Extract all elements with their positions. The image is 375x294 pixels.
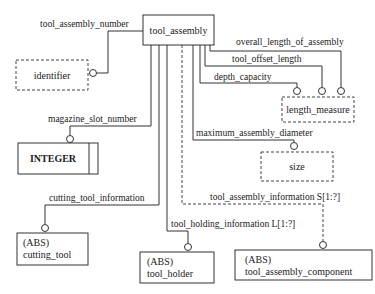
relation-end-circle-icon [42,225,49,232]
type-label: size [289,161,305,172]
relation-tool-assembly-number [90,31,144,77]
label-overall-length-of-assembly: overall_length_of_assembly [236,37,344,47]
relation-tool-offset-length [205,45,326,95]
relation-overall-length-of-assembly [210,45,345,95]
type-identifier: identifier [16,60,88,90]
type-label: identifier [34,70,71,81]
relation-end-circle-icon [294,88,301,95]
label-magazine-slot-number: magazine_slot_number [48,114,137,124]
express-g-diagram: tool_assembly identifier length_measure … [0,0,375,294]
simple-type-integer: INTEGER [18,143,98,174]
relation-end-circle-icon [320,242,327,249]
entity-tool-assembly: tool_assembly [143,15,214,45]
entity-label: tool_assembly_component [245,266,352,277]
label-cutting-tool-information: cutting_tool_information [49,193,145,203]
type-size: size [261,152,333,181]
relation-end-circle-icon [291,143,298,150]
entity-tool-assembly-component: (ABS) tool_assembly_component [235,250,372,280]
abstract-marker: (ABS) [23,237,49,249]
label-tool-assembly-number: tool_assembly_number [40,19,129,29]
entity-tool-holder: (ABS) tool_holder [140,252,214,283]
label-tool-assembly-information: tool_assembly_information S[1:?] [210,192,340,202]
type-length-measure: length_measure [282,97,354,122]
label-tool-offset-length: tool_offset_length [232,54,302,64]
relation-magazine-slot-number [67,45,152,143]
relation-end-circle-icon [185,244,192,251]
type-label: length_measure [286,104,350,115]
relation-depth-capacity [200,45,301,95]
relation-end-circle-icon [67,136,74,143]
relation-end-circle-icon [90,70,97,77]
entity-label: tool_assembly [150,25,208,36]
entity-cutting-tool: (ABS) cutting_tool [17,233,88,265]
label-maximum-assembly-diameter: maximum_assembly_diameter [196,128,313,138]
label-tool-holding-information: tool_holding_information L[1:?] [171,219,295,229]
relation-end-circle-icon [319,88,326,95]
relation-end-circle-icon [338,88,345,95]
entity-label: tool_holder [147,268,194,279]
entity-label: cutting_tool [23,249,72,260]
abstract-marker: (ABS) [245,254,271,266]
type-label: INTEGER [30,153,77,164]
label-depth-capacity: depth_capacity [214,72,272,82]
abstract-marker: (ABS) [147,256,173,268]
